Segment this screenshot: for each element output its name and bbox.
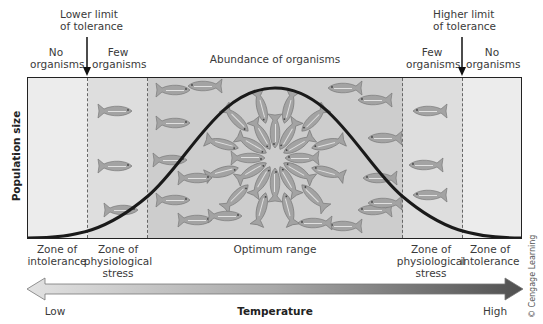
plot-area	[27, 77, 522, 239]
higher-limit-label: Higher limit of tolerance	[433, 8, 491, 32]
zone-label-line: stress	[83, 267, 153, 279]
zone-label-line: Zone of	[83, 243, 153, 255]
few-organisms-right-label: Few organisms	[406, 46, 458, 70]
no-organisms-right-line1: No	[466, 46, 518, 58]
abundance-text: Abundance of organisms	[190, 53, 360, 65]
few-organisms-right-line2: organisms	[406, 58, 458, 70]
zone-label-line: Zone of	[396, 243, 466, 255]
no-organisms-right-line2: organisms	[466, 58, 518, 70]
lower-limit-line2: of tolerance	[60, 20, 116, 32]
x-axis-high-label: High	[478, 305, 512, 317]
few-organisms-right-line1: Few	[406, 46, 458, 58]
x-axis-title: Temperature	[220, 305, 330, 317]
no-organisms-left-line2: organisms	[30, 58, 82, 70]
higher-limit-line2: of tolerance	[433, 20, 491, 32]
no-organisms-right-label: No organisms	[466, 46, 518, 70]
zone-label-optimum: Optimum range	[200, 243, 350, 255]
zone-label-line: Zone of	[460, 243, 520, 255]
lower-limit-line1: Lower limit	[60, 8, 116, 20]
zone-label-line: intolerance	[27, 255, 87, 267]
higher-limit-arrow-icon	[458, 37, 466, 76]
x-axis-low-label: Low	[40, 305, 70, 317]
zone-label-line: physiological	[396, 255, 466, 267]
lower-limit-label: Lower limit of tolerance	[60, 8, 116, 32]
few-organisms-left-line2: organisms	[92, 58, 144, 70]
zone-label-line: Optimum range	[200, 243, 350, 255]
zone-label-intolerance-high: Zone of intolerance	[460, 243, 520, 267]
fish-school-icon	[98, 79, 447, 233]
fish-and-curve	[28, 78, 522, 239]
double-arrow-icon	[27, 278, 523, 300]
few-organisms-left-label: Few organisms	[92, 46, 144, 70]
no-organisms-left-line1: No	[30, 46, 82, 58]
higher-limit-line1: Higher limit	[433, 8, 491, 20]
zone-label-line: stress	[396, 267, 466, 279]
zone-label-line: Zone of	[27, 243, 87, 255]
few-organisms-left-line1: Few	[92, 46, 144, 58]
zone-label-line: intolerance	[460, 255, 520, 267]
lower-limit-arrow-icon	[83, 37, 91, 76]
zone-label-stress-low: Zone of physiological stress	[83, 243, 153, 279]
zone-label-intolerance-low: Zone of intolerance	[27, 243, 87, 267]
zone-label-stress-high: Zone of physiological stress	[396, 243, 466, 279]
copyright-text: © Cengage Learning	[528, 235, 537, 318]
y-axis-label: Population size	[10, 106, 22, 206]
zone-label-line: physiological	[83, 255, 153, 267]
abundance-label: Abundance of organisms	[190, 53, 360, 65]
no-organisms-left-label: No organisms	[30, 46, 82, 70]
